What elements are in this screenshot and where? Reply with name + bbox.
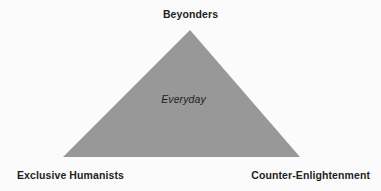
vertex-label-exclusive-humanists: Exclusive Humanists bbox=[17, 170, 124, 181]
vertex-label-counter-enlightenment: Counter-Enlightenment bbox=[251, 170, 370, 181]
vertex-label-beyonders: Beyonders bbox=[0, 9, 381, 20]
diagram-canvas: Beyonders Everyday Exclusive Humanists C… bbox=[0, 0, 381, 191]
triangle-diagram-svg bbox=[0, 0, 381, 191]
triangle-shape bbox=[63, 30, 300, 157]
